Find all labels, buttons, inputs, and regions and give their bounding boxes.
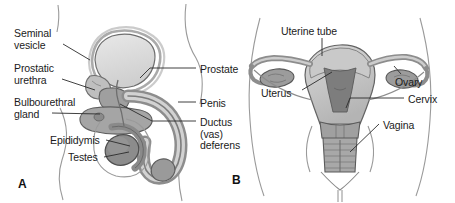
label-uterine-tube: Uterine tube [281, 26, 337, 38]
label-uterus: Uterus [261, 88, 291, 100]
label-vagina: Vagina [383, 120, 414, 132]
panel-letter-a: A [18, 177, 27, 191]
body-contour-lower-left [59, 108, 66, 200]
label-testes: Testes [68, 152, 98, 164]
label-bulbourethral-gland: Bulbourethral gland [14, 97, 75, 120]
midline-lower [338, 190, 342, 202]
body-contour-right [416, 18, 431, 196]
label-seminal-vesicle: Seminal vesicle [14, 28, 51, 51]
label-ovary: Ovary [395, 77, 423, 89]
panel-letter-b: B [232, 173, 241, 187]
uterine-tube-right-outer [370, 57, 426, 68]
thigh-inner-right [368, 126, 374, 172]
label-penis: Penis [200, 98, 226, 110]
body-contour-upper-left [57, 5, 59, 32]
label-cervix: Cervix [408, 94, 437, 106]
figure-root: Seminal vesicle Prostatic urethra Bulbou… [0, 0, 455, 203]
panel-male-reproductive-system: Seminal vesicle Prostatic urethra Bulbou… [0, 0, 228, 203]
body-contour-right-upper [185, 4, 202, 104]
perineum-outline [321, 172, 359, 190]
thigh-inner-left [306, 126, 312, 172]
label-epididymis: Epididymis [50, 135, 100, 147]
body-contour-left [249, 18, 264, 196]
leader-seminal-vesicle [63, 44, 90, 60]
panel-female-reproductive-system: Uterine tube Uterus Ovary Cervix Vagina … [228, 0, 455, 203]
bulbourethral-gland-shape [80, 107, 152, 134]
label-prostatic-urethra: Prostatic urethra [14, 63, 54, 86]
